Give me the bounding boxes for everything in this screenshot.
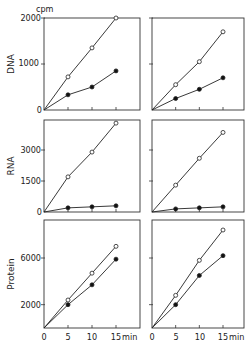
xtick-left-10: 10 [87,332,97,342]
series-line-open [44,123,116,212]
data-point-filled [66,206,70,210]
panel-grid [41,16,244,328]
xtick-right-5: 5 [173,332,178,342]
series-line-filled [44,206,116,212]
data-point-open [66,298,70,302]
data-point-open [114,244,118,248]
data-point-open [221,228,225,232]
data-point-open [114,121,118,125]
series-line-filled [44,259,116,328]
data-point-filled [114,69,118,73]
data-point-filled [221,205,225,209]
ylabel-protein: Protein [6,258,16,290]
series-line-filled [152,78,223,110]
data-point-open [174,83,178,87]
xtick-left-unit: min [122,332,137,342]
data-point-open [174,293,178,297]
series-line-filled [44,71,116,110]
data-point-open [90,271,94,275]
xtick-right-0: 0 [149,332,154,342]
panel-dna-right [149,18,244,110]
ytick-protein-2000: 2000 [20,300,41,310]
xtick-right-unit: min [229,332,244,342]
xtick-right-15: 15 [218,332,228,342]
ytick-dna-0: 0 [37,105,42,115]
data-point-open [114,16,118,20]
data-point-open [197,60,201,64]
data-point-filled [197,206,201,210]
panel-rna-left [41,120,140,212]
series-line-filled [152,207,223,212]
panel-frame [152,18,244,110]
data-point-open [197,258,201,262]
data-point-filled [197,274,201,278]
series-line-open [44,246,116,328]
data-point-open [197,156,201,160]
data-point-filled [90,85,94,89]
series-line-open [44,18,116,110]
data-point-filled [66,93,70,97]
data-point-filled [174,303,178,307]
series-line-filled [152,256,223,328]
series-line-open [152,32,223,110]
ytick-rna-3000: 3000 [20,145,41,155]
data-point-open [66,75,70,79]
data-point-open [221,30,225,34]
data-point-filled [174,207,178,211]
data-point-filled [174,97,178,101]
data-point-open [174,183,178,187]
panel-frame [152,120,244,212]
chart-figure: cpm DNA RNA Protein 2000 1000 0 3000 150… [0,0,250,345]
data-point-open [90,150,94,154]
ylabel-rna: RNA [6,156,16,176]
panel-protein-left [41,220,140,328]
data-point-filled [114,204,118,208]
data-point-filled [90,205,94,209]
ytick-rna-0: 0 [37,207,42,217]
data-point-filled [90,283,94,287]
panel-frame [44,18,140,110]
ytick-dna-2000: 2000 [20,13,41,23]
xtick-left-15: 15 [111,332,121,342]
ytick-dna-1000: 1000 [18,58,39,68]
data-point-filled [66,303,70,307]
data-point-open [66,175,70,179]
data-point-filled [114,257,118,261]
series-line-open [152,230,223,328]
xtick-left-0: 0 [41,332,46,342]
data-point-open [221,130,225,134]
panel-protein-right [149,220,244,328]
ytick-protein-6000: 6000 [20,253,41,263]
xtick-left-5: 5 [65,332,70,342]
data-point-filled [221,254,225,258]
ytick-rna-1500: 1500 [20,176,41,186]
data-point-open [90,46,94,50]
ylabel-dna: DNA [6,53,16,74]
panel-frame [44,120,140,212]
panel-rna-right [149,120,244,212]
panel-dna-left [41,16,140,110]
series-line-open [152,132,223,212]
data-point-filled [197,87,201,91]
xtick-right-10: 10 [195,332,205,342]
data-point-filled [221,76,225,80]
